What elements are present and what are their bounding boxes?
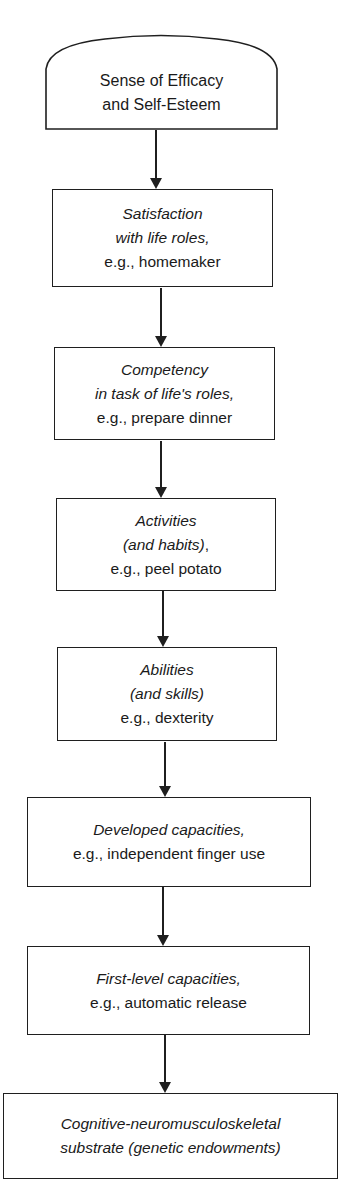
node-line: First-level capacities, [96, 967, 241, 991]
node-line: Cognitive-neuromusculoskeletal [61, 1112, 281, 1136]
node-first-level-capacities: First-level capacities, e.g., automatic … [27, 946, 310, 1035]
node-line: and Self-Esteem [100, 93, 223, 117]
arrow-down-icon [159, 742, 171, 797]
node-line-italic: (and habits) [123, 536, 205, 553]
node-line: (and habits), [123, 533, 209, 557]
node-line: e.g., prepare dinner [97, 406, 232, 430]
node-line: e.g., automatic release [90, 991, 247, 1015]
arrow-down-icon [157, 887, 169, 946]
node-line: Activities [135, 509, 196, 533]
node-line: with life roles, [116, 226, 210, 250]
node-line: e.g., independent finger use [73, 842, 265, 866]
arrow-down-icon [157, 591, 169, 647]
node-line: Satisfaction [122, 202, 202, 226]
arrow-down-icon [159, 1035, 171, 1093]
arrow-down-icon [150, 130, 162, 189]
node-abilities: Abilities (and skills) e.g., dexterity [57, 647, 277, 741]
node-line: Abilities [140, 658, 193, 682]
node-line: Developed capacities, [93, 818, 245, 842]
arrow-down-icon [155, 288, 167, 347]
node-line: e.g., dexterity [120, 706, 213, 730]
node-line: Competency [121, 358, 208, 382]
node-line: (and skills) [130, 682, 204, 706]
node-line-suffix: , [205, 536, 209, 553]
node-line: e.g., homemaker [104, 250, 220, 274]
node-developed-capacities: Developed capacities, e.g., independent … [27, 797, 311, 887]
node-substrate: Cognitive-neuromusculoskeletal substrate… [3, 1093, 338, 1179]
node-line: Sense of Efficacy [100, 69, 223, 93]
node-line: in task of life's roles, [95, 382, 234, 406]
node-sense-of-efficacy: Sense of Efficacy and Self-Esteem [45, 33, 278, 130]
arrow-down-icon [155, 441, 167, 498]
node-line: substrate (genetic endowments) [60, 1136, 281, 1160]
node-competency: Competency in task of life's roles, e.g.… [54, 347, 275, 440]
node-satisfaction: Satisfaction with life roles, e.g., home… [52, 189, 273, 287]
node-line: e.g., peel potato [110, 557, 221, 581]
node-activities: Activities (and habits), e.g., peel pota… [56, 498, 276, 591]
